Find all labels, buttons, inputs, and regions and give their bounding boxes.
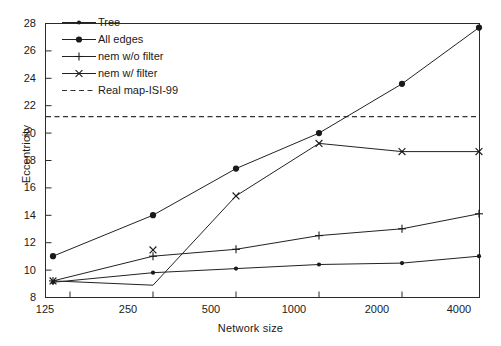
x-tick-125: 125: [20, 304, 70, 315]
x-axis-ticks: [70, 292, 480, 298]
legend-item-all-edges: All edges: [98, 31, 278, 48]
y-tick-12: 12: [12, 237, 36, 248]
x-tick-500: 500: [186, 304, 236, 315]
x-axis-tick-labels: 125 250 500 1000 2000 4000: [0, 304, 501, 320]
legend-item-tree: Tree: [98, 14, 278, 31]
legend-item-real-map-isi-99: Real map-ISI-99: [98, 82, 278, 99]
y-tick-26: 26: [12, 45, 36, 56]
y-tick-14: 14: [12, 210, 36, 221]
legend-item-nem-wo-filter: nem w/o filter: [98, 48, 278, 65]
y-tick-28: 28: [12, 18, 36, 29]
series-nem-wo-filter: [49, 210, 483, 285]
legend-item-nem-w-filter: nem w/ filter: [98, 65, 278, 82]
x-tick-2000: 2000: [352, 304, 402, 315]
series-nem-w-filter: [50, 140, 483, 285]
x-tick-250: 250: [103, 304, 153, 315]
legend-samples: [62, 20, 96, 90]
y-tick-22: 22: [12, 100, 36, 111]
y-tick-20: 20: [12, 128, 36, 139]
series-tree: [51, 254, 481, 284]
chart-legend: Tree All edges nem w/o filter nem w/ fil…: [98, 14, 278, 99]
y-tick-16: 16: [12, 182, 36, 193]
chart-figure: Eccentricity Network size 28 26 24 22 20…: [0, 0, 501, 346]
x-tick-1000: 1000: [269, 304, 319, 315]
legend-sample-nem-w-filter: [62, 70, 96, 77]
y-axis-tick-labels: 28 26 24 22 20 18 16 14 12 10 8: [8, 0, 36, 346]
legend-sample-nem-wo-filter: [62, 53, 96, 61]
x-axis-title: Network size: [0, 322, 501, 334]
x-tick-4000: 4000: [434, 304, 484, 315]
legend-sample-all-edges: [62, 36, 96, 42]
y-tick-18: 18: [12, 155, 36, 166]
y-tick-8: 8: [12, 292, 36, 303]
y-tick-10: 10: [12, 265, 36, 276]
y-tick-24: 24: [12, 73, 36, 84]
